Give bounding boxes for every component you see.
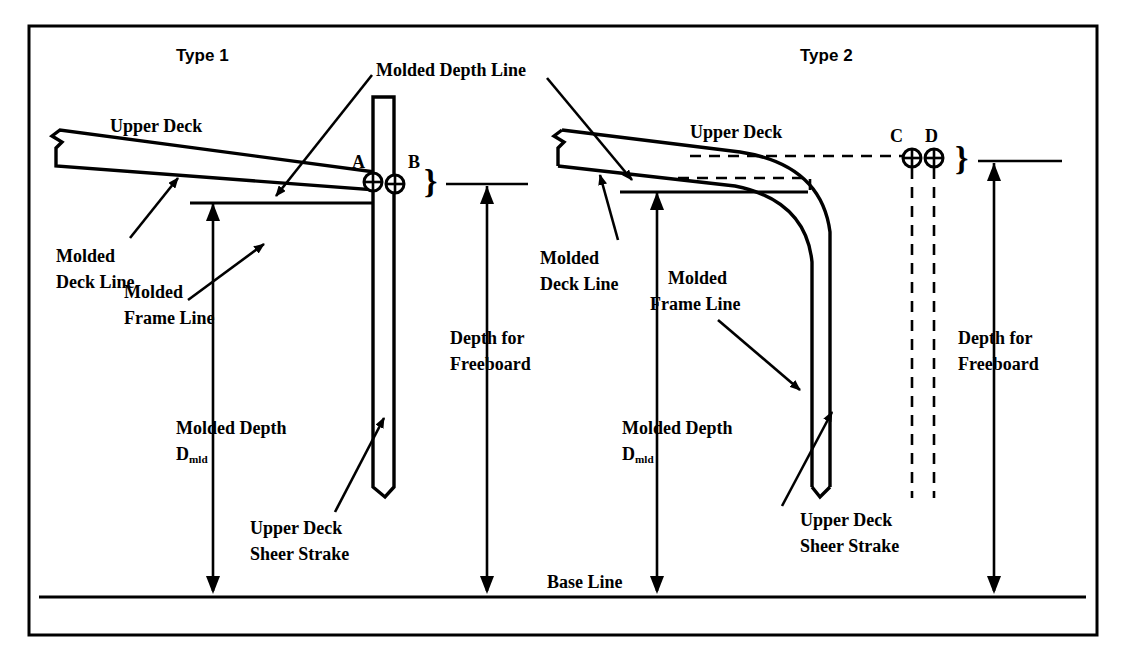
type1-freeboard-brace: } [424,162,437,201]
type1-dmld-subscript: mld [189,453,208,465]
diagram-vector [0,0,1125,661]
base-line-label: Base Line [547,572,623,593]
type2-dmld-symbol: D [622,444,635,464]
type1-molded-depth-dimension [206,203,220,594]
molded-depth-line-label: Molded Depth Line [376,60,526,81]
type1-heading: Type 1 [176,46,229,66]
type1-upper-deck-plate [52,130,375,190]
type2-molded-depth-dimension [650,192,664,594]
type2-molded-frame-leader [718,320,800,390]
type2-point-c-label: C [890,126,903,147]
type1-depth-freeboard-dimension [446,184,528,594]
type2-point-d-marker [925,149,943,167]
type2-dmld-subscript: mld [635,453,654,465]
type1-point-b-label: B [408,152,420,173]
type1-molded-frame-leader [188,244,264,300]
type2-deck-band-lower [558,166,812,487]
type1-dmld-symbol: D [176,444,189,464]
type1-point-a-label: A [352,152,365,173]
type2-point-d-label: D [925,126,938,147]
type1-sheer-strake [373,97,394,497]
type2-heading: Type 2 [800,46,853,66]
type2-molded-deck-leader [600,175,618,240]
type1-molded-deck-leader [130,178,178,238]
diagram-canvas: Type 1 Type 2 Molded Depth Line Upper De… [0,0,1125,661]
type2-freeboard-brace: } [955,139,968,178]
type2-sheer-strake-bottom [812,487,830,497]
type1-point-a-marker [364,173,382,191]
type1-point-b-marker [386,175,404,193]
type2-upper-deck-label: Upper Deck [690,122,782,143]
type2-point-c-marker [903,149,921,167]
type2-depth-freeboard-dimension [978,161,1062,594]
type2-deck-break [554,130,564,166]
type1-upper-deck-label: Upper Deck [110,116,202,137]
